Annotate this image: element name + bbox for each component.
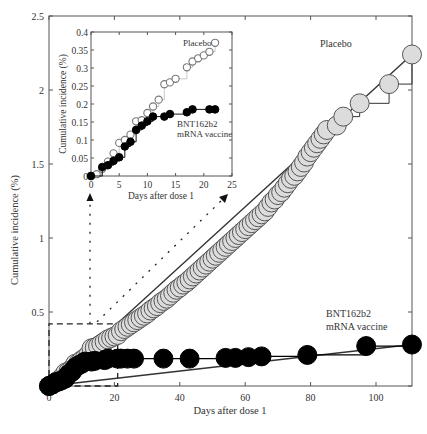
vaccine-marker — [357, 337, 376, 356]
inset-plot: 0510152025 00.050.10.150.20.250.30.350.4… — [58, 28, 237, 202]
placebo-marker — [402, 45, 421, 64]
inset-x-tick-label: 25 — [227, 180, 237, 190]
placebo-marker — [334, 107, 353, 126]
inset-vaccine-marker — [127, 138, 135, 146]
inset-x-tick-label: 10 — [143, 180, 153, 190]
inset-y-axis-label: Cumulative incidence (%) — [58, 54, 69, 154]
inset-vaccine-marker — [211, 106, 219, 114]
vaccine-marker — [180, 349, 199, 368]
inset-placebo-label: Placebo — [183, 38, 212, 48]
inset-y-tick-label: 0.05 — [71, 154, 88, 164]
placebo-marker — [350, 94, 369, 113]
main-y-axis-label: Cumulative incidence (%) — [9, 174, 21, 285]
inset-x-tick-label: 0 — [89, 180, 94, 190]
y-tick-label: 2.5 — [32, 11, 45, 22]
inset-y-tick-label: 0.15 — [71, 118, 88, 128]
cumulative-incidence-chart: 020406080100 00.511.522.5 Days after dos… — [0, 0, 427, 434]
vaccine-marker — [154, 349, 173, 368]
inset-placebo-marker — [206, 48, 213, 55]
inset-placebo-marker — [172, 75, 179, 82]
y-tick-label: 1.5 — [32, 159, 45, 170]
inset-y-tick-label: 0.1 — [76, 136, 88, 146]
inset-y-tick-label: 0.35 — [71, 46, 88, 56]
inset-placebo-marker — [155, 96, 162, 103]
vaccine-marker — [402, 335, 421, 354]
inset-vaccine-label-line1: BNT162b2 — [177, 119, 218, 129]
inset-vaccine-marker — [115, 153, 123, 161]
main-placebo-label: Placebo — [320, 38, 352, 49]
inset-vaccine-marker — [149, 113, 157, 121]
inset-x-tick-label: 5 — [117, 180, 122, 190]
inset-y-tick-label: 0.3 — [76, 64, 88, 74]
inset-y-tick-label: 0.2 — [76, 100, 88, 110]
inset-vaccine-marker — [189, 106, 197, 114]
vaccine-marker — [298, 345, 317, 364]
inset-x-tick-label: 15 — [171, 180, 181, 190]
vaccine-marker — [252, 347, 271, 366]
arrowhead-up-icon — [87, 193, 94, 201]
inset-x-axis-label: Days after dose 1 — [128, 191, 194, 201]
inset-placebo-marker — [211, 39, 218, 46]
inset-placebo-marker — [183, 64, 190, 71]
main-vaccine-label-line1: BNT162b2 — [326, 308, 371, 319]
placebo-marker — [380, 75, 399, 94]
main-x-axis-label: Days after dose 1 — [193, 405, 266, 416]
y-tick-label: 0.5 — [32, 307, 45, 318]
x-tick-label: 40 — [175, 392, 185, 403]
inset-vaccine-label-line2: mRNA vaccine — [177, 129, 232, 139]
inset-x-tick-label: 20 — [199, 180, 209, 190]
inset-y-tick-label: 0.25 — [71, 82, 88, 92]
inset-vaccine-marker — [87, 172, 95, 180]
inset-placebo-marker — [149, 103, 156, 110]
y-tick-label: 1 — [39, 233, 44, 244]
x-tick-label: 20 — [109, 392, 119, 403]
y-tick-label: 2 — [39, 85, 44, 96]
x-tick-label: 80 — [306, 392, 316, 403]
vaccine-marker — [125, 349, 144, 368]
x-tick-label: 60 — [240, 392, 250, 403]
inset-y-tick-label: 0.4 — [76, 28, 88, 38]
inset-vaccine-marker — [166, 110, 174, 118]
main-vaccine-label-line2: mRNA vaccine — [326, 321, 388, 332]
x-tick-label: 100 — [369, 392, 384, 403]
